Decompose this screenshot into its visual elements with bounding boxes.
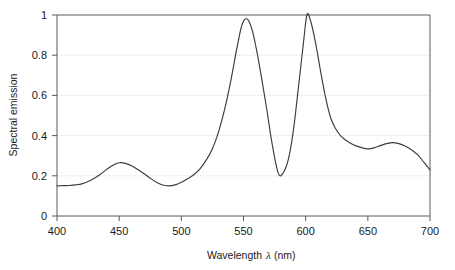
x-axis-title: Wavelength λ (nm): [207, 249, 296, 261]
ytick-label-0_2: 0.2: [32, 170, 47, 182]
x-axis-title-pre: Wavelength: [207, 249, 262, 261]
grid-lines: [57, 55, 430, 176]
x-axis-title-symbol: λ: [265, 249, 271, 261]
x-axis-title-post: (nm): [274, 249, 296, 261]
ytick-label-0: 0: [41, 210, 47, 222]
x-tick-marks: [57, 216, 430, 221]
xtick-label-700: 700: [421, 225, 439, 237]
ytick-label-0_6: 0.6: [32, 89, 47, 101]
xtick-label-550: 550: [234, 225, 252, 237]
ytick-label-0_8: 0.8: [32, 49, 47, 61]
spectral-emission-chart: 1 0.8 0.6 0.4 0.2 0 400 450 500 550 600 …: [0, 0, 455, 270]
y-tick-labels: 1 0.8 0.6 0.4 0.2 0: [32, 9, 47, 222]
plot-frame: [57, 15, 430, 216]
y-axis-title: Spectral emission: [7, 73, 19, 156]
xtick-label-400: 400: [48, 225, 66, 237]
xtick-label-500: 500: [172, 225, 190, 237]
xtick-label-450: 450: [110, 225, 128, 237]
xtick-label-600: 600: [296, 225, 314, 237]
y-tick-marks: [52, 15, 57, 216]
ytick-label-1: 1: [41, 9, 47, 21]
x-tick-labels: 400 450 500 550 600 650 700: [48, 225, 439, 237]
xtick-label-650: 650: [359, 225, 377, 237]
spectral-emission-figure: 1 0.8 0.6 0.4 0.2 0 400 450 500 550 600 …: [0, 0, 455, 270]
spectral-emission-curve: [57, 14, 430, 186]
ytick-label-0_4: 0.4: [32, 130, 47, 142]
